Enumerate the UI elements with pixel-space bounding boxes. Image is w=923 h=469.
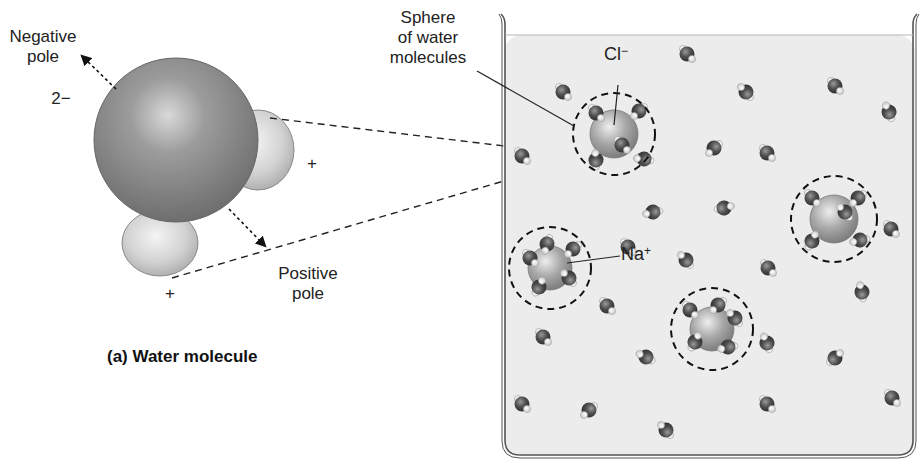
negative-pole-arrow: [82, 56, 116, 89]
sodium-symbol: Na: [621, 244, 644, 264]
diagram-canvas: [0, 0, 923, 469]
sodium-charge: +: [644, 244, 651, 258]
negative-pole-label: Negative pole: [2, 27, 84, 67]
chloride-charge: −: [621, 44, 628, 58]
positive-pole-line1: Positive: [268, 264, 348, 284]
sphere-line3: molecules: [382, 48, 474, 68]
sphere-line1: Sphere: [382, 8, 474, 28]
sphere-line2: of water: [382, 28, 474, 48]
sphere-of-water-label: Sphere of water molecules: [382, 8, 474, 68]
chloride-symbol: Cl: [604, 44, 621, 64]
water-molecule-model: [94, 58, 294, 276]
hydrogen-charge-top: +: [302, 154, 322, 174]
zoom-line-top: [270, 118, 538, 150]
negative-pole-line1: Negative: [2, 27, 84, 47]
figure-caption-a: (a) Water molecule: [107, 347, 258, 367]
hydrogen-charge-bottom: +: [160, 284, 180, 304]
negative-pole-line2: pole: [2, 47, 84, 67]
positive-pole-arrow: [229, 209, 265, 246]
sodium-ion-label: Na+: [621, 244, 651, 264]
positive-pole-label: Positive pole: [268, 264, 348, 304]
oxygen-charge-label: 2−: [46, 89, 76, 109]
chloride-ion-label: Cl−: [604, 44, 628, 64]
positive-pole-line2: pole: [268, 284, 348, 304]
